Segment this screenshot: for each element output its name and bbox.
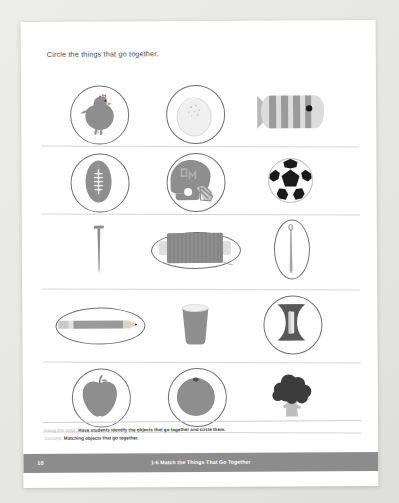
cup-icon — [178, 302, 212, 346]
pencil-sharpener-icon — [274, 302, 308, 344]
worksheet-cell[interactable] — [147, 147, 241, 216]
worksheet-cell[interactable] — [244, 214, 338, 283]
teacher-note: Using this page: Have students identify … — [44, 425, 354, 442]
worksheet-cell[interactable] — [148, 290, 242, 359]
worksheet-row — [21, 146, 376, 216]
football-icon — [81, 159, 115, 205]
concept-line: Concept: Matching objects that go togeth… — [44, 433, 354, 442]
fish-icon — [254, 87, 326, 137]
worksheet-row — [22, 214, 377, 284]
soccer-ball-icon — [266, 156, 314, 204]
worksheet-cell[interactable] — [52, 290, 146, 359]
using-this-page-text: Have students identify the objects that … — [78, 427, 225, 433]
worksheet-cell[interactable] — [52, 215, 146, 284]
egg-icon — [174, 89, 214, 137]
worksheet-cell[interactable] — [244, 289, 338, 358]
chicken-icon — [75, 91, 121, 135]
apple-icon — [79, 374, 121, 418]
pencil-icon — [57, 317, 141, 332]
worksheet-cell[interactable] — [51, 147, 145, 216]
lesson-title: 1-5 Match the Things That Go Together — [23, 458, 378, 466]
worksheet-row — [22, 289, 377, 359]
football-helmet-icon — [166, 157, 222, 205]
worksheet-row — [21, 78, 376, 148]
page-title: Circle the things that go together. — [47, 49, 159, 59]
concept-label: Concept: — [44, 435, 62, 440]
concept-text: Matching objects that go together. — [64, 435, 139, 440]
worksheet-page: Circle the things that go together. — [21, 20, 379, 488]
screenshot-root: Circle the things that go together. — [0, 0, 399, 503]
sewing-needle-icon — [286, 222, 296, 274]
footer-bar: 10 1-5 Match the Things That Go Together — [23, 452, 378, 473]
orange-icon — [175, 375, 217, 417]
worksheet-cell[interactable] — [243, 146, 337, 215]
worksheet-cell[interactable] — [147, 79, 241, 148]
worksheet-cell[interactable] — [148, 215, 242, 284]
nail-icon — [91, 224, 107, 276]
thread-spool-icon — [157, 231, 233, 267]
using-this-page-label: Using this page: — [44, 428, 77, 433]
worksheet-cell[interactable] — [243, 78, 337, 147]
worksheet-cell[interactable] — [51, 79, 145, 148]
broccoli-icon — [267, 371, 317, 419]
